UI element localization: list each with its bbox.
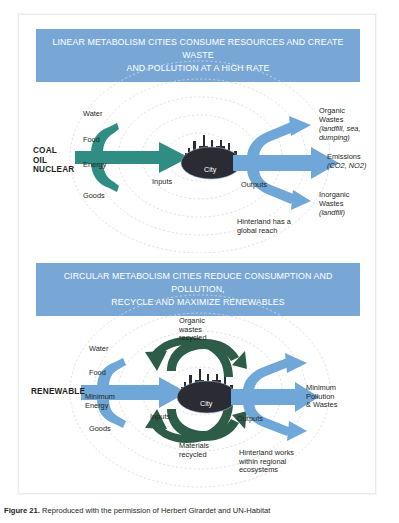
label-output-emissions-detail: (CO2, NO2)	[327, 162, 385, 171]
label-outputs-caption: Outputs	[241, 181, 267, 190]
label-city-linear: City	[204, 166, 216, 175]
label-c-outputs-caption: Outputs	[237, 415, 263, 424]
circular-diagram-stage: RENEWABLE Water Food Minimum Energy Good…	[19, 253, 377, 495]
figure-page: LINEAR METABOLISM CITIES CONSUME RESOURC…	[18, 14, 376, 494]
label-recycle-materials: Materials recycled	[179, 442, 235, 459]
label-recycle-organic-wastes: Organic wastes recycled	[179, 317, 235, 343]
label-c-input-energy: Minimum Energy	[85, 393, 133, 410]
panel-linear-metabolism: LINEAR METABOLISM CITIES CONSUME RESOURC…	[19, 15, 377, 253]
label-c-input-water: Water	[89, 345, 108, 354]
linear-diagram-stage: COAL OIL NUCLEAR Water Food Energy Goods…	[19, 15, 377, 253]
label-hinterland-linear: Hinterland has a global reach	[237, 218, 327, 235]
figure-caption: Figure 21. Reproduced with the permissio…	[4, 506, 396, 522]
label-output-organic-wastes-detail: (landfill, sea, dumping)	[319, 125, 379, 142]
label-input-energy: Energy	[83, 161, 106, 170]
label-output-inorganic-wastes: Inorganic Wastes	[319, 191, 379, 208]
panel-circular-metabolism: CIRCULAR METABOLISM CITIES REDUCE CONSUM…	[19, 253, 377, 495]
label-input-goods: Goods	[83, 192, 105, 201]
label-city-circular: City	[200, 400, 212, 409]
figure-caption-text: Reproduced with the permission of Herber…	[40, 506, 270, 515]
label-input-water: Water	[83, 110, 102, 119]
figure-caption-prefix: Figure 21.	[4, 506, 40, 515]
label-hinterland-circular: Hinterland works within regional ecosyst…	[239, 449, 331, 475]
label-output-inorganic-wastes-detail: (landfill)	[319, 209, 379, 218]
label-input-food: Food	[83, 136, 100, 145]
label-c-output-minimum-pollution: Minimum Pollution & Wastes	[306, 384, 366, 410]
label-c-input-food: Food	[89, 369, 106, 378]
label-output-organic-wastes: Organic Wastes	[319, 107, 379, 124]
label-inputs-caption: Inputs	[152, 178, 172, 187]
label-source-coal-oil-nuclear: COAL OIL NUCLEAR	[33, 146, 83, 175]
label-c-input-goods: Goods	[89, 425, 111, 434]
label-c-inputs-caption: Inputs	[150, 413, 170, 422]
